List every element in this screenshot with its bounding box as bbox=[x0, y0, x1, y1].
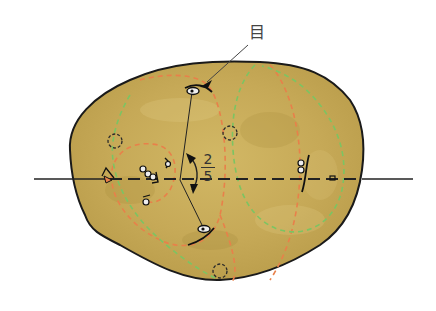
potato-diagram bbox=[0, 0, 436, 311]
eye-label: 目 bbox=[249, 25, 265, 41]
fraction-numerator: 2 bbox=[201, 152, 215, 166]
rotation-fraction: 2 5 bbox=[201, 152, 215, 183]
fraction-denominator: 5 bbox=[201, 169, 215, 183]
